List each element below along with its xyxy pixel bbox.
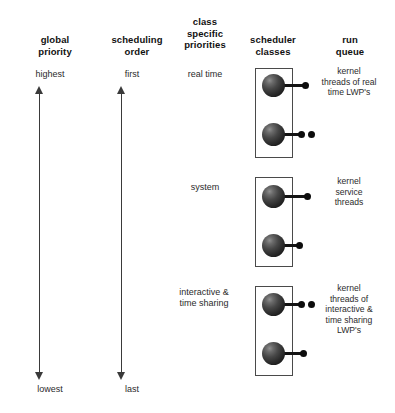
column-header-line: queue (305, 46, 395, 58)
run-queue-thread-dot (308, 131, 315, 138)
class-priority-label-line: system (160, 182, 250, 193)
run-queue-label-line: threads of (303, 294, 395, 305)
run-queue-label-real-time: kernelthreads of realtime LWP's (303, 66, 395, 98)
run-queue-label-line: threads (303, 197, 395, 208)
scheduling-order-axis (116, 86, 127, 380)
kernel-thread-sphere-real-time-thread-2 (262, 123, 285, 146)
class-priority-label-system: system (160, 182, 250, 193)
kernel-thread-sphere-its-thread-2 (262, 342, 285, 365)
scheduling-order-axis-arrowhead-down-icon (117, 372, 125, 380)
scheduling-order-axis-bottom-label: last (92, 384, 172, 395)
global-priority-axis-shaft (39, 92, 40, 374)
run-queue-label-system: kernelservicethreads (303, 176, 395, 208)
column-header-global-priority: globalpriority (10, 34, 100, 57)
run-queue-label-line: kernel (303, 176, 395, 187)
class-priority-label-interactive-time-sharing: interactive &time sharing (156, 287, 252, 309)
run-queue-label-line: interactive & (303, 304, 395, 315)
column-header-line: run (305, 34, 395, 46)
scheduler-classes-diagram: globalpriorityschedulingorderclassspecif… (0, 0, 395, 413)
column-header-line: global (10, 34, 100, 46)
run-queue-label-line: kernel (303, 66, 395, 77)
kernel-thread-sphere-real-time-thread-1 (262, 74, 285, 97)
global-priority-axis (34, 86, 45, 380)
kernel-thread-sphere-system-thread-2 (262, 234, 285, 257)
column-header-line: priority (10, 46, 100, 58)
kernel-thread-sphere-its-thread-1 (262, 293, 285, 316)
run-queue-label-line: time sharing (303, 315, 395, 326)
class-priority-label-line: real time (160, 69, 250, 80)
column-header-line: class (160, 16, 250, 28)
class-priority-label-line: interactive & (156, 287, 252, 298)
run-queue-thread-dot (296, 242, 303, 249)
run-queue-label-line: service (303, 187, 395, 198)
global-priority-axis-arrowhead-up-icon (35, 86, 43, 94)
global-priority-axis-top-label: highest (10, 69, 90, 80)
run-queue-thread-dot (300, 350, 307, 357)
global-priority-axis-bottom-label: lowest (10, 384, 90, 395)
kernel-thread-sphere-system-thread-1 (262, 185, 285, 208)
column-header-run-queue: runqueue (305, 34, 395, 57)
run-queue-label-line: threads of real (303, 77, 395, 88)
run-queue-label-line: LWP's (303, 325, 395, 336)
class-priority-label-line: time sharing (156, 298, 252, 309)
run-queue-label-line: time LWP's (303, 87, 395, 98)
run-queue-label-interactive-time-sharing: kernelthreads ofinteractive &time sharin… (303, 283, 395, 336)
run-queue-thread-dot (298, 131, 305, 138)
run-queue-label-line: kernel (303, 283, 395, 294)
global-priority-axis-arrowhead-down-icon (35, 372, 43, 380)
scheduling-order-axis-arrowhead-up-icon (117, 86, 125, 94)
scheduling-order-axis-shaft (121, 92, 122, 374)
class-priority-label-real-time: real time (160, 69, 250, 80)
